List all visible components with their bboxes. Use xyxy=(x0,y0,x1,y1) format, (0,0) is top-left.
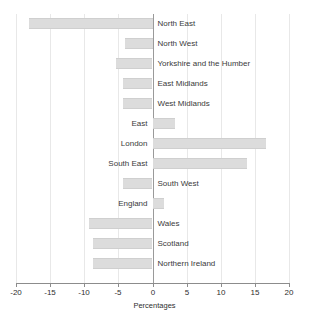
bar-row: Northern Ireland xyxy=(0,254,309,274)
x-axis-tick-label: 15 xyxy=(251,288,260,297)
category-label: South West xyxy=(158,177,199,190)
x-axis-tick-label: 5 xyxy=(185,288,189,297)
bar xyxy=(123,78,152,89)
bar xyxy=(123,98,152,109)
x-axis-tick xyxy=(289,283,290,287)
category-label: England xyxy=(118,197,147,210)
bar-row: London xyxy=(0,134,309,154)
bar xyxy=(153,118,175,129)
bar-row: North East xyxy=(0,14,309,34)
category-label: North East xyxy=(158,17,196,30)
bar-row: East Midlands xyxy=(0,74,309,94)
bar-row: Scotland xyxy=(0,234,309,254)
bar xyxy=(153,198,164,209)
category-label: North West xyxy=(158,37,198,50)
bar-row: West Midlands xyxy=(0,94,309,114)
bar-row: Wales xyxy=(0,214,309,234)
bar xyxy=(29,18,153,29)
x-axis-tick xyxy=(118,283,119,287)
category-label: South East xyxy=(108,157,147,170)
bar xyxy=(93,258,152,269)
x-axis-tick xyxy=(50,283,51,287)
bar xyxy=(93,238,152,249)
category-label: East xyxy=(131,117,147,130)
bar-row: England xyxy=(0,194,309,214)
x-axis-tick-label: -10 xyxy=(78,288,90,297)
x-axis-tick xyxy=(187,283,188,287)
x-axis-tick-label: -20 xyxy=(10,288,22,297)
category-label: Wales xyxy=(158,217,180,230)
bar-row: East xyxy=(0,114,309,134)
x-axis-tick xyxy=(153,283,154,287)
plot-area: North EastNorth WestYorkshire and the Hu… xyxy=(0,0,309,283)
x-axis-tick-label: 0 xyxy=(151,288,155,297)
bar-row: South West xyxy=(0,174,309,194)
bar xyxy=(89,218,152,229)
x-axis-tick xyxy=(84,283,85,287)
bar-chart: North EastNorth WestYorkshire and the Hu… xyxy=(0,0,309,319)
bar xyxy=(153,138,266,149)
bar xyxy=(153,158,247,169)
category-label: Northern Ireland xyxy=(158,257,216,270)
bar-row: North West xyxy=(0,34,309,54)
category-label: Yorkshire and the Humber xyxy=(158,57,251,70)
bar xyxy=(123,178,152,189)
bar-row: Yorkshire and the Humber xyxy=(0,54,309,74)
x-axis-tick xyxy=(221,283,222,287)
x-axis-title: Percentages xyxy=(0,301,309,310)
x-axis-tick xyxy=(16,283,17,287)
category-label: East Midlands xyxy=(158,77,208,90)
x-axis-tick-label: -15 xyxy=(44,288,56,297)
x-axis-tick-label: 20 xyxy=(285,288,294,297)
category-label: Scotland xyxy=(158,237,189,250)
bar-row: South East xyxy=(0,154,309,174)
x-axis-tick-label: 10 xyxy=(217,288,226,297)
category-label: West Midlands xyxy=(158,97,210,110)
bar xyxy=(125,38,153,49)
category-label: London xyxy=(121,137,148,150)
x-axis-tick xyxy=(255,283,256,287)
x-axis-tick-label: -5 xyxy=(114,288,121,297)
bar xyxy=(116,58,152,69)
